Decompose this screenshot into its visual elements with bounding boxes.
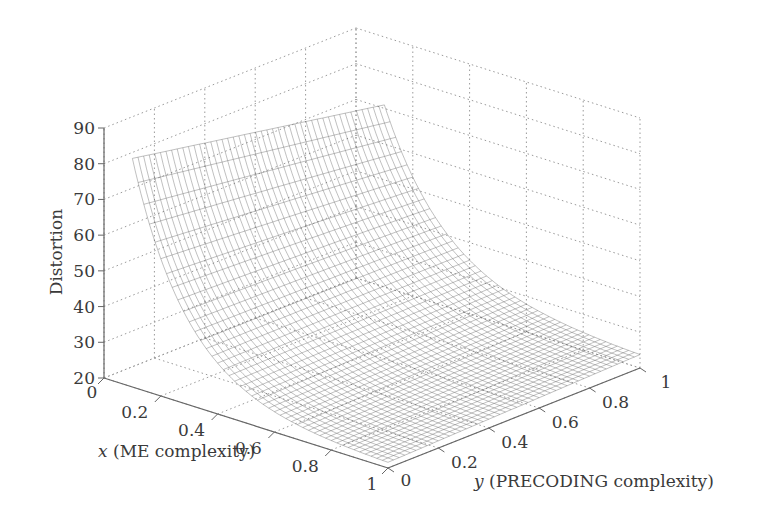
- surface-plot: 203040506070809000.20.40.60.8100.20.40.6…: [0, 0, 761, 520]
- y-tick-label: 0.8: [602, 392, 629, 412]
- tick-labels: 203040506070809000.20.40.60.8100.20.40.6…: [73, 118, 671, 494]
- x-tick-label: 0: [87, 382, 98, 402]
- x-axis-var: x: [98, 441, 108, 461]
- y-tick-label: 1: [661, 372, 672, 392]
- y-tick-label: 0.6: [552, 412, 579, 432]
- z-tick-label: 50: [73, 261, 95, 281]
- z-tick-label: 30: [73, 332, 95, 352]
- x-tick-label: 0.8: [292, 456, 319, 476]
- z-tick-label: 80: [73, 154, 95, 174]
- z-axis-title: Distortion: [46, 209, 66, 295]
- y-axis-title: y (PRECODING complexity): [473, 471, 714, 491]
- x-tick-label: 0.4: [178, 420, 205, 440]
- x-tick-label: 1: [367, 474, 378, 494]
- y-tick-label: 0: [401, 470, 412, 490]
- z-tick-label: 60: [73, 225, 95, 245]
- y-axis-var: y: [473, 471, 484, 491]
- x-tick-label: 0.2: [121, 402, 148, 422]
- y-tick-label: 0.2: [451, 452, 478, 472]
- y-tick-label: 0.4: [501, 432, 528, 452]
- z-tick-label: 70: [73, 189, 95, 209]
- z-tick-label: 90: [73, 118, 95, 138]
- z-tick-label: 40: [73, 297, 95, 317]
- y-axis-title-text: (PRECODING complexity): [484, 471, 714, 491]
- x-axis-title: x (ME complexity): [98, 441, 255, 461]
- x-axis-title-text: (ME complexity): [108, 441, 256, 461]
- surface-mesh: [132, 105, 640, 462]
